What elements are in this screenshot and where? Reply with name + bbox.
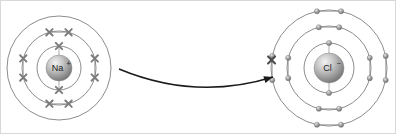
nucleus-label-chloride-ion: Cl — [323, 63, 332, 73]
electron-dot-chloride-ion — [338, 9, 343, 14]
electron-transfer-arrow-path — [119, 69, 273, 87]
ionic-bonding-diagram: Na+Cl− — [1, 1, 396, 134]
electron-dot-chloride-ion — [286, 76, 291, 81]
nucleus-charge-chloride-ion: − — [337, 60, 341, 67]
atoms-layer: Na+Cl− — [7, 9, 388, 128]
atom-sodium-ion: Na+ — [7, 16, 111, 120]
atom-chloride-ion: Cl− — [268, 9, 388, 128]
electron-dot-chloride-ion — [383, 53, 388, 58]
electron-dot-chloride-ion — [314, 122, 319, 127]
electron-dot-chloride-ion — [316, 106, 321, 111]
electron-dot-chloride-ion — [314, 9, 319, 14]
electron-dot-chloride-ion — [338, 122, 343, 127]
electron-dot-chloride-ion — [326, 90, 331, 95]
electron-dot-chloride-ion — [367, 76, 372, 81]
electron-dot-chloride-ion — [286, 55, 291, 60]
nucleus-charge-sodium-ion: + — [67, 60, 71, 67]
diagram-canvas: Na+Cl− — [0, 0, 396, 134]
electron-dot-chloride-ion — [316, 25, 321, 30]
electron-dot-chloride-ion — [326, 40, 331, 45]
electron-dot-chloride-ion — [337, 106, 342, 111]
nucleus-label-sodium-ion: Na — [52, 63, 64, 73]
electron-dot-chloride-ion — [367, 55, 372, 60]
electron-dot-chloride-ion — [383, 77, 388, 82]
electron-dot-chloride-ion — [337, 25, 342, 30]
arrow-layer — [119, 69, 273, 87]
